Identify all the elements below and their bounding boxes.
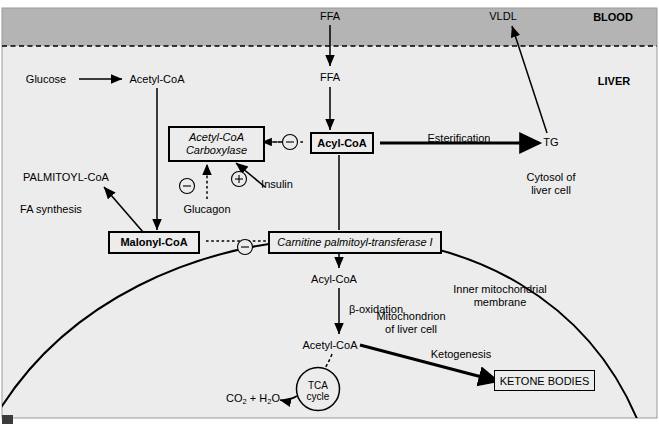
label-co2-h2o: CO2 + H2O [226,392,280,407]
label-ffa-blood: FFA [320,10,340,23]
enzyme-box-acetyl-coa-carboxylase[interactable]: Acetyl-CoA Carboxylase [168,126,265,162]
cpt1-box-text: Carnitine palmitoyl-transferase I [277,236,432,249]
label-palmitoyl-coa: PALMITOYL-CoA [23,171,109,184]
label-tca-cycle: TCA cycle [307,381,330,402]
cytosol-line1: Cytosol of [527,171,576,183]
label-tg: TG [543,136,558,149]
label-acyl-coa-mitochondrion: Acyl-CoA [311,273,357,286]
h2o-suffix: O [271,392,280,404]
metabolite-box-acyl-coa-cytosol[interactable]: Acyl-CoA [310,132,374,154]
label-cytosol-of-liver-cell: Cytosol of liver cell [527,171,576,196]
label-fa-synthesis: FA synthesis [20,203,82,216]
malonyl-coa-box-text: Malonyl-CoA [120,236,187,249]
diagram-canvas [0,0,659,426]
label-glucagon: Glucagon [183,203,230,216]
label-vldl: VLDL [489,10,517,23]
cytosol-line2: liver cell [531,184,571,196]
label-glucose: Glucose [26,73,66,86]
liver-background [2,8,657,418]
acc-box-text: Acetyl-CoA Carboxylase [186,131,247,156]
label-blood-compartment: BLOOD [593,11,633,24]
label-esterification: Esterification [428,132,491,145]
label-ketogenesis: Ketogenesis [431,348,492,361]
co2-prefix: CO [226,392,243,404]
imm-line1: Inner mitochondrial [453,283,547,295]
mito-line2: of liver cell [385,323,437,335]
imm-line2: membrane [474,296,527,308]
tca-line2: cycle [307,391,330,402]
label-ffa-liver: FFA [320,71,340,84]
metabolite-box-ketone-bodies[interactable]: KETONE BODIES [494,370,595,391]
pathway-figure: FFA VLDL BLOOD FFA LIVER Glucose Acetyl-… [0,0,659,426]
label-acetyl-coa-mitochondrion: Acetyl-CoA [302,339,357,352]
label-insulin: Insulin [261,178,293,191]
enzyme-box-carnitine-palmitoyl-transferase-1[interactable]: Carnitine palmitoyl-transferase I [268,231,442,254]
label-inner-mitochondrial-membrane: Inner mitochondrial membrane [453,283,547,308]
acyl-coa-box-text: Acyl-CoA [317,137,367,150]
label-liver-compartment: LIVER [598,75,630,88]
acc-line1: Acetyl-CoA [189,131,244,143]
metabolite-box-malonyl-coa[interactable]: Malonyl-CoA [108,231,200,254]
co2-plus: + H [247,392,267,404]
tca-line1: TCA [308,380,328,391]
corner-marker [2,415,13,424]
label-acetyl-coa-cytosol: Acetyl-CoA [129,73,184,86]
ketone-bodies-box-text: KETONE BODIES [500,375,590,387]
label-mitochondrion-of-liver-cell: Mitochondrion of liver cell [376,310,445,335]
mito-line1: Mitochondrion [376,310,445,322]
acc-line2: Carboxylase [186,144,247,156]
